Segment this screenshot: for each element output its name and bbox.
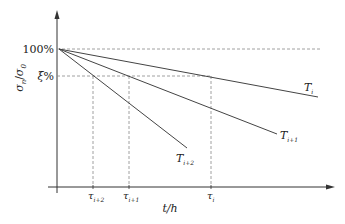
degradation-diagram: 100% ξ% σn/σ0 Ti Ti+1 Ti+2 τi+2 τi+1 τi … [0, 0, 345, 224]
x-tick-label-tau-i: τi [207, 190, 215, 203]
svg-text:σn/σ0: σn/σ0 [13, 64, 28, 92]
curve-label-T-i: Ti [304, 81, 313, 95]
x-axis-label: t/h [162, 202, 177, 215]
x-tick-label-tau-i2: τi+2 [88, 190, 104, 203]
curve-label-T-i2: Ti+2 [176, 152, 194, 166]
y-axis-label: σn/σ0 [13, 64, 28, 92]
curve-T-i2 [59, 49, 187, 148]
y-tick-label-100: 100% [23, 43, 54, 56]
curve-label-T-i1: Ti+1 [280, 129, 298, 143]
x-tick-label-tau-i1: τi+1 [123, 190, 139, 203]
x-axis-arrow-icon [326, 185, 335, 190]
y-axis-arrow-icon [55, 10, 60, 19]
curve-T-i [59, 49, 318, 97]
curve-T-i1 [59, 49, 277, 134]
y-tick-label-xi: ξ% [37, 70, 54, 83]
